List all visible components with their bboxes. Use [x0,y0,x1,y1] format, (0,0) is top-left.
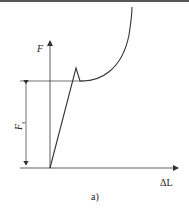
force-extension-diagram: F ΔL F s a) [0,0,189,209]
force-curve [50,7,132,168]
y-axis-label: F [36,43,44,54]
caption: a) [91,191,99,203]
svg-text:s: s [20,121,26,124]
x-axis-label: ΔL [160,177,173,188]
dimension-label: F s [13,121,26,131]
